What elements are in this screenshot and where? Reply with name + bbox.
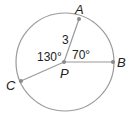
- segment-length-label: 3: [62, 33, 69, 47]
- label-a: A: [74, 2, 84, 17]
- point-a: [77, 17, 81, 21]
- label-c: C: [6, 78, 16, 93]
- point-c: [19, 79, 23, 83]
- circle-diagram: A B C P 3 130° 70°: [0, 0, 136, 118]
- point-b: [111, 60, 115, 64]
- label-p: P: [60, 66, 69, 81]
- angle-130-label: 130°: [37, 50, 62, 64]
- angle-70-label: 70°: [72, 48, 90, 62]
- point-p: [62, 60, 66, 64]
- label-b: B: [117, 55, 126, 70]
- segment-pc: [21, 62, 64, 81]
